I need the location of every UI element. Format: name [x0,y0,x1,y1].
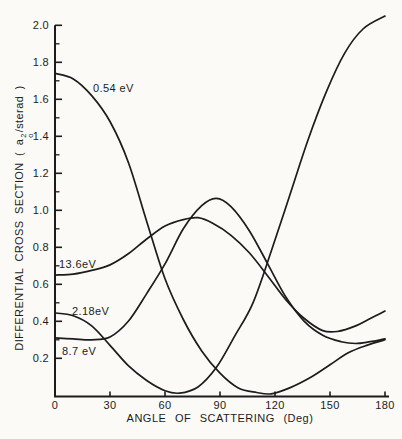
y-tick-label: 0.6 [20,278,49,291]
plot-area [0,0,402,439]
y-tick-label: 0.2 [20,352,49,365]
y-tick-label: 2.0 [20,19,49,32]
y-tick-label: 1.0 [20,204,49,217]
x-tick-label: 60 [150,399,180,412]
y-tick-label: 1.8 [20,56,49,69]
curve-label-218ev: 2.18eV [72,305,109,317]
figure: DIFFERENTIAL CROSS SECTION ( a2o/sterad … [0,0,402,439]
curve-label-054ev: 0.54 eV [93,82,134,94]
x-tick-label: 150 [315,399,345,412]
curve-label-87ev: 8.7 eV [62,345,96,357]
x-axis-title: ANGLE OF SCATTERING (Deg) [55,412,385,424]
x-tick-label: 120 [260,399,290,412]
x-tick-label: 30 [95,399,125,412]
y-tick-label: 0.4 [20,315,49,328]
y-tick-label: 1.4 [20,130,49,143]
y-tick-label: 1.2 [20,167,49,180]
curve-label-136ev: 13.6eV [59,258,96,270]
x-tick-label: 0 [40,399,70,412]
x-tick-label: 180 [370,399,400,412]
curve-2.18eV [55,16,385,393]
curve-0.54eV [55,73,385,394]
y-tick-label: 1.6 [20,93,49,106]
x-tick-label: 90 [205,399,235,412]
y-tick-label: 0.8 [20,241,49,254]
curve-8.7eV [55,198,385,343]
